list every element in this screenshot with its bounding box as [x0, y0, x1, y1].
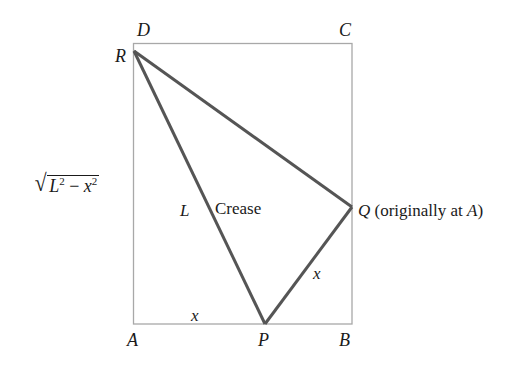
- side-length-expression: √ L2 − x2: [34, 171, 99, 195]
- point-label-b: B: [339, 331, 350, 349]
- fold-edge-pq: [265, 207, 352, 324]
- fold-edge-rq: [134, 51, 352, 207]
- point-label-a: A: [127, 331, 138, 349]
- point-label-p: P: [258, 331, 269, 349]
- point-label-q-group: Q (originally at A): [358, 202, 483, 219]
- point-label-c: C: [339, 21, 351, 39]
- crease-line-rp: [134, 51, 265, 324]
- point-label-r: R: [115, 47, 126, 65]
- folding-diagram: D C R A P B Q (originally at A) Crease L…: [0, 0, 530, 367]
- point-label-d: D: [137, 21, 150, 39]
- square-root-icon: √: [35, 171, 47, 195]
- q-note-point: A: [467, 201, 477, 220]
- point-label-q: Q: [358, 201, 370, 220]
- segment-label-ap-x: x: [191, 307, 199, 324]
- q-note-suffix: ): [477, 201, 483, 220]
- q-note-prefix: (originally at: [370, 201, 467, 220]
- hypotenuse-label-l: L: [180, 202, 189, 219]
- radicand: L2 − x2: [47, 175, 99, 195]
- crease-label: Crease: [215, 200, 261, 217]
- segment-label-pq-x: x: [313, 265, 321, 282]
